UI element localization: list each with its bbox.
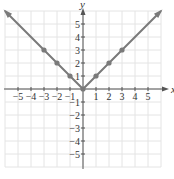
axes — [4, 8, 169, 169]
y-axis-label: y — [79, 0, 85, 10]
y-tick-label: 1 — [75, 71, 80, 82]
y-tick-label: −4 — [69, 136, 80, 147]
data-point — [54, 60, 59, 65]
y-tick-label: −3 — [69, 123, 80, 134]
y-tick-label: 2 — [75, 58, 80, 69]
x-tick-label: −5 — [13, 91, 24, 102]
y-tick-label: 3 — [75, 45, 80, 56]
data-point — [41, 47, 46, 52]
data-point — [67, 73, 72, 78]
x-axis-arrow-icon — [162, 87, 169, 92]
x-tick-label: −2 — [52, 91, 63, 102]
y-tick-label: 4 — [75, 32, 80, 43]
x-tick-label: 2 — [107, 91, 112, 102]
x-tick-label: 3 — [120, 91, 125, 102]
x-tick-label: 5 — [146, 91, 151, 102]
x-tick-label: −3 — [39, 91, 50, 102]
y-tick-label: 5 — [75, 19, 80, 30]
data-point — [106, 60, 111, 65]
data-point — [80, 86, 85, 91]
graph-y-equals-abs-x: −5−4−3−2−112345−5−4−3−2−112345 x y — [0, 0, 174, 179]
x-tick-label: −4 — [26, 91, 37, 102]
x-tick-label: 1 — [94, 91, 99, 102]
x-axis-label: x — [170, 83, 174, 95]
x-tick-label: 4 — [133, 91, 138, 102]
y-tick-label: −5 — [69, 149, 80, 160]
y-tick-label: −1 — [69, 97, 80, 108]
data-point — [119, 47, 124, 52]
data-point — [93, 73, 98, 78]
y-tick-label: −2 — [69, 110, 80, 121]
